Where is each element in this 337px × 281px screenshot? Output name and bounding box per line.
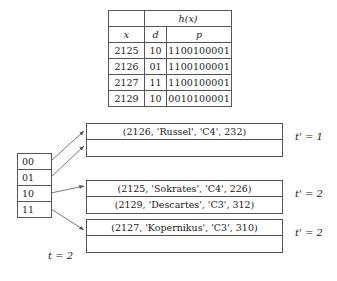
- arrow-dir01-to-bucket1: [51, 146, 84, 177]
- bucket-2: (2125, 'Sokrates', 'C4', 226) (2129, 'De…: [86, 180, 283, 214]
- cell-p: 0010100001: [167, 91, 232, 107]
- table-row: 2125 10 1100100001: [109, 43, 232, 59]
- column-header-p: p: [167, 27, 232, 43]
- cell-x: 2126: [109, 59, 145, 75]
- global-depth-label: t = 2: [48, 250, 73, 261]
- directory-slot-00[interactable]: 00: [18, 154, 51, 170]
- extendible-hashing-diagram: h(x) x d p 2125 10 1100100001 2126 01 11…: [0, 0, 337, 281]
- bucket-record: (2129, 'Descartes', 'C3', 312): [87, 197, 282, 213]
- cell-x: 2127: [109, 75, 145, 91]
- cell-x: 2129: [109, 91, 145, 107]
- column-header-p-label: p: [196, 29, 202, 40]
- group-header-hx: h(x): [145, 11, 232, 27]
- bucket-record: (2125, 'Sokrates', 'C4', 226): [87, 181, 282, 197]
- directory-box: 00 01 10 11: [17, 153, 52, 218]
- column-header-d: d: [145, 27, 167, 43]
- bucket-1: (2126, 'Russel', 'C4', 232): [86, 123, 283, 157]
- hash-function-table: h(x) x d p 2125 10 1100100001 2126 01 11…: [108, 10, 232, 107]
- bucket-record: (2126, 'Russel', 'C4', 232): [87, 124, 282, 140]
- cell-p: 1100100001: [167, 59, 232, 75]
- table-column-header-row: x d p: [109, 27, 232, 43]
- local-depth-label-bucket-1: t' = 1: [295, 131, 323, 142]
- bucket-record-empty: [87, 140, 282, 156]
- group-header-hx-label: h(x): [179, 13, 198, 24]
- cell-x: 2125: [109, 43, 145, 59]
- empty-corner-cell: [109, 11, 145, 27]
- arrow-dir10-to-bucket2: [51, 186, 84, 193]
- table-row: 2126 01 1100100001: [109, 59, 232, 75]
- cell-p: 1100100001: [167, 75, 232, 91]
- table-row: 2129 10 0010100001: [109, 91, 232, 107]
- bucket-record-empty: [87, 236, 282, 252]
- column-header-x: x: [109, 27, 145, 43]
- cell-d: 10: [145, 91, 167, 107]
- local-depth-label-bucket-3: t' = 2: [295, 227, 323, 238]
- bucket-3: (2127, 'Kopernikus', 'C3', 310): [86, 219, 283, 253]
- directory-slot-01[interactable]: 01: [18, 170, 51, 186]
- directory-slot-10[interactable]: 10: [18, 186, 51, 202]
- cell-d: 10: [145, 43, 167, 59]
- arrow-dir11-to-bucket3: [51, 209, 84, 230]
- arrow-dir00-to-bucket1: [51, 131, 84, 161]
- cell-p: 1100100001: [167, 43, 232, 59]
- cell-d: 01: [145, 59, 167, 75]
- local-depth-label-bucket-2: t' = 2: [295, 188, 323, 199]
- column-header-x-label: x: [124, 29, 129, 40]
- directory-slot-11[interactable]: 11: [18, 202, 51, 218]
- table-group-header-row: h(x): [109, 11, 232, 27]
- column-header-d-label: d: [153, 29, 159, 40]
- bucket-record: (2127, 'Kopernikus', 'C3', 310): [87, 220, 282, 236]
- cell-d: 11: [145, 75, 167, 91]
- table-row: 2127 11 1100100001: [109, 75, 232, 91]
